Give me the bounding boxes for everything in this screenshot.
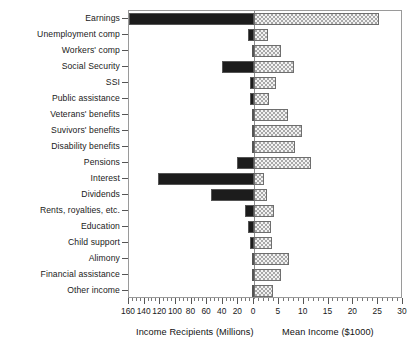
x-axis-tick-right-20 [352, 298, 353, 304]
y-axis-label-pensions: Pensions [0, 157, 120, 167]
y-axis-label-suvivors-benefits: Suvivors' benefits [0, 125, 120, 135]
x-axis-tick-right-3 [268, 298, 269, 301]
y-axis-label-rents-royalties-etc: Rents, royalties, etc. [0, 205, 120, 215]
recipients-bar-earnings [129, 13, 254, 25]
x-axis-label-left-20: 20 [233, 306, 242, 316]
x-axis-label-left-100: 100 [168, 306, 182, 316]
bar-row-child-support [129, 235, 401, 251]
y-axis-label-workers-comp: Workers' comp [0, 45, 120, 55]
x-axis-tick-left-105 [171, 298, 172, 301]
x-axis-tick-right-15 [328, 298, 329, 304]
bar-row-other-income [129, 283, 401, 299]
x-axis-tick-right-2 [263, 298, 264, 301]
right-axis-title: Mean Income ($1000) [282, 327, 374, 337]
x-axis-tick-left-50 [214, 298, 215, 301]
x-axis-tick-left-40 [222, 298, 223, 304]
mean-income-bar-suvivors-benefits [254, 125, 302, 137]
x-axis-tick-right-30 [402, 298, 403, 304]
bar-row-dividends [129, 187, 401, 203]
y-axis-label-alimony: Alimony [0, 253, 120, 263]
x-axis-tick-left-60 [206, 298, 207, 304]
plot-area [128, 10, 402, 298]
bar-row-pensions [129, 155, 401, 171]
x-axis-label-left-0: 0 [251, 306, 256, 316]
x-axis-tick-right-22 [362, 298, 363, 301]
bar-row-public-assistance [129, 91, 401, 107]
x-axis-tick-left-125 [155, 298, 156, 301]
mean-income-bar-rents-royalties-etc [254, 205, 274, 217]
mean-income-bar-dividends [254, 189, 267, 201]
bar-row-suvivors-benefits [129, 123, 401, 139]
bar-row-rents-royalties-etc [129, 203, 401, 219]
x-axis-tick-left-45 [218, 298, 219, 301]
y-axis-label-ssi: SSI [0, 77, 120, 87]
x-axis-tick-left-150 [136, 298, 137, 301]
y-axis-label-dividends: Dividends [0, 189, 120, 199]
x-axis-tick-right-21 [357, 298, 358, 301]
x-axis-label-right-20: 20 [348, 306, 357, 316]
y-axis-label-veterans-benefits: Veterans' benefits [0, 109, 120, 119]
recipients-bar-rents-royalties-etc [245, 205, 254, 217]
y-axis-label-earnings: Earnings [0, 13, 120, 23]
x-axis-tick-labels: 16014012010080604020051015202530 [0, 306, 416, 318]
x-axis-tick-left-25 [233, 298, 234, 301]
bar-row-education [129, 219, 401, 235]
y-axis-label-education: Education [0, 221, 120, 231]
y-axis-label-public-assistance: Public assistance [0, 93, 120, 103]
mean-income-bar-workers-comp [254, 45, 281, 57]
x-axis-tick-right-16 [332, 298, 333, 301]
mean-income-bar-unemployment-comp [254, 29, 268, 41]
bar-row-financial-assistance [129, 267, 401, 283]
x-axis-tick-left-0 [253, 298, 254, 304]
x-axis-tick-left-135 [148, 298, 149, 301]
x-axis-tick-left-75 [194, 298, 195, 301]
x-axis-tick-right-9 [298, 298, 299, 301]
x-axis-tick-right-7 [288, 298, 289, 301]
x-axis-tick-right-26 [382, 298, 383, 301]
bar-row-veterans-benefits [129, 107, 401, 123]
x-axis-label-right-25: 25 [372, 306, 381, 316]
x-axis-tick-right-18 [342, 298, 343, 301]
x-axis-tick-right-14 [323, 298, 324, 301]
x-axis-label-left-80: 80 [186, 306, 195, 316]
x-axis-label-left-40: 40 [217, 306, 226, 316]
x-axis-tick-left-160 [128, 298, 129, 304]
y-axis-label-unemployment-comp: Unemployment comp [0, 29, 120, 39]
mean-income-bar-financial-assistance [254, 269, 281, 281]
x-axis-label-left-60: 60 [201, 306, 210, 316]
x-axis-tick-right-13 [318, 298, 319, 301]
mean-income-bar-ssi [254, 77, 276, 89]
x-axis-tick-left-15 [241, 298, 242, 301]
left-axis-title: Income Recipients (Millions) [136, 327, 254, 337]
mean-income-bar-other-income [254, 285, 273, 297]
mean-income-bar-pensions [254, 157, 311, 169]
x-axis-tick-right-24 [372, 298, 373, 301]
mean-income-bar-education [254, 221, 271, 233]
mean-income-bar-public-assistance [254, 93, 269, 105]
x-axis-tick-right-29 [397, 298, 398, 301]
x-axis-tick-right-1 [258, 298, 259, 301]
bar-row-unemployment-comp [129, 27, 401, 43]
y-axis-label-child-support: Child support [0, 237, 120, 247]
x-axis-label-right-10: 10 [298, 306, 307, 316]
x-axis-tick-left-110 [167, 298, 168, 301]
bar-row-earnings [129, 11, 401, 27]
bar-row-social-security [129, 59, 401, 75]
mean-income-bar-interest [254, 173, 264, 185]
x-axis-tick-left-5 [249, 298, 250, 301]
y-axis-label-social-security: Social Security [0, 61, 120, 71]
x-axis-tick-right-19 [347, 298, 348, 301]
x-axis-label-right-5: 5 [275, 306, 280, 316]
x-axis-tick-left-70 [198, 298, 199, 301]
y-axis-category-labels: EarningsUnemployment compWorkers' compSo… [0, 10, 120, 298]
recipients-bar-interest [158, 173, 254, 185]
mean-income-bar-social-security [254, 61, 294, 73]
bar-row-ssi [129, 75, 401, 91]
mean-income-bar-child-support [254, 237, 272, 249]
bar-row-interest [129, 171, 401, 187]
x-axis-tick-right-8 [293, 298, 294, 301]
y-axis-label-other-income: Other income [0, 285, 120, 295]
x-axis-tick-left-30 [230, 298, 231, 301]
x-axis-tick-left-140 [144, 298, 145, 304]
x-axis-label-left-140: 140 [137, 306, 151, 316]
